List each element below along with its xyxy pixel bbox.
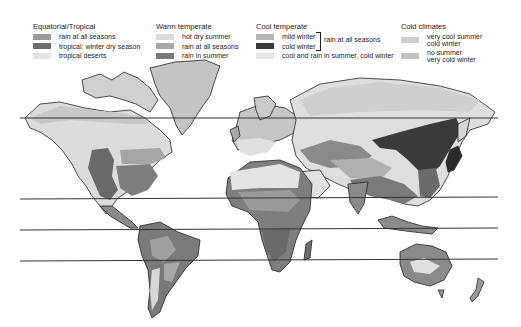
legend-swatch: [156, 34, 174, 40]
legend-swatch: [33, 53, 51, 59]
legend-group-title: Cold climates: [401, 22, 482, 31]
legend-label: rain at all seasons: [182, 43, 238, 50]
bracket-label: rain at all seasons: [324, 36, 380, 43]
legend-label: tropical: winter dry season: [59, 43, 140, 50]
greenland: [150, 60, 220, 135]
legend-item: rain at all seasons: [33, 32, 140, 42]
new-zealand: [470, 278, 484, 302]
indonesia: [378, 216, 438, 234]
legend-swatch: [401, 37, 419, 43]
legend-swatch: [156, 53, 174, 59]
legend-label: rain in summer: [182, 52, 228, 59]
legend-item: no summer very cold winter: [401, 48, 482, 64]
legend-group-cold-climates: Cold climates very cool summer cold wint…: [401, 22, 482, 64]
legend-item: rain in summer: [156, 51, 238, 61]
legend-item: hot dry summer: [156, 32, 238, 42]
legend-label-line: no summer: [427, 49, 462, 56]
legend-group-warm-temperate: Warm temperate hot dry summer rain at al…: [156, 22, 238, 61]
legend-swatch: [401, 53, 419, 59]
legend-label: no summer very cold winter: [427, 49, 476, 63]
legend-item: rain at all seasons: [156, 42, 238, 52]
legend-group-cool-temperate: Cool temperate mild winter cold winter c…: [256, 22, 394, 61]
legend-group-title: Equatorial/Tropical: [33, 22, 140, 31]
arctic-islands: [82, 72, 158, 112]
bracket-icon: [316, 32, 321, 51]
legend-swatch: [256, 34, 274, 40]
legend-swatch: [256, 53, 274, 59]
legend-label: rain at all seasons: [59, 33, 115, 40]
legend-swatch: [33, 43, 51, 49]
legend-item: very cool summer cold winter: [401, 32, 482, 48]
legend-item: tropical: winter dry season: [33, 42, 140, 52]
legend-item: cool and rain in summer, cold winter: [256, 51, 394, 61]
tasmania: [438, 290, 444, 298]
legend-label: mild winter: [282, 33, 315, 40]
legend-label: cold winter: [282, 43, 315, 50]
central-america: [100, 206, 138, 228]
legend-swatch: [156, 43, 174, 49]
legend-label: hot dry summer: [182, 33, 231, 40]
legend-group-title: Warm temperate: [156, 22, 238, 31]
legend-group-equatorial: Equatorial/Tropical rain at all seasons …: [33, 22, 140, 61]
legend-label: tropical deserts: [59, 52, 106, 59]
legend-group-title: Cool temperate: [256, 22, 394, 31]
legend-label-line: very cold winter: [427, 56, 476, 63]
legend-label: very cool summer cold winter: [427, 33, 482, 47]
legend-item: tropical deserts: [33, 51, 140, 61]
legend-label-line: very cool summer: [427, 33, 482, 40]
legend-swatch: [256, 43, 274, 49]
climate-legend: Equatorial/Tropical rain at all seasons …: [0, 0, 521, 60]
legend-label: cool and rain in summer, cold winter: [282, 52, 394, 59]
legend-label-line: cold winter: [427, 40, 460, 47]
legend-swatch: [33, 34, 51, 40]
madagascar: [304, 240, 312, 260]
